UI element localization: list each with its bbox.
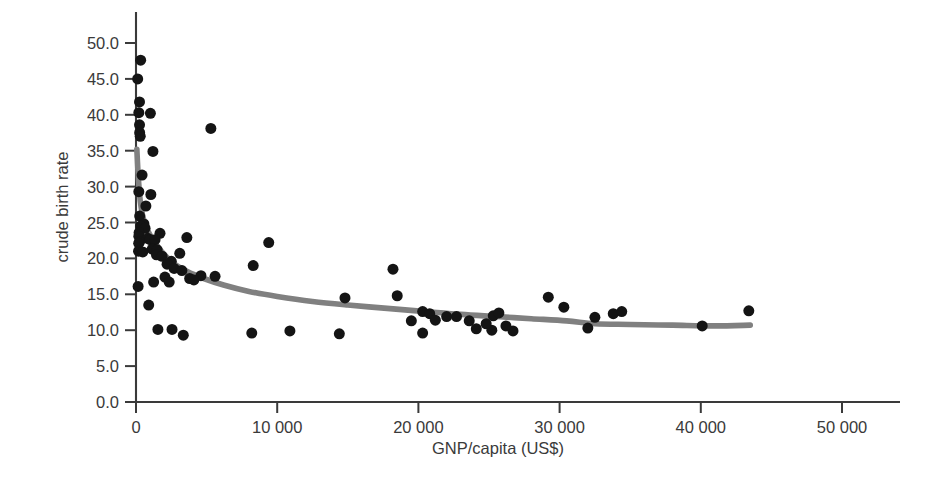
y-axis-title: crude birth rate [53,152,71,263]
data-point [441,311,452,322]
data-point [133,186,144,197]
data-point [133,107,144,118]
data-point [132,73,143,84]
data-point [178,330,189,341]
data-point [181,232,192,243]
data-points [132,55,754,341]
y-axis-ticks: 0.05.010.015.020.025.030.035.040.045.050… [87,34,136,411]
data-point [481,318,492,329]
data-point [616,306,627,317]
data-point [137,170,148,181]
data-point [246,328,257,339]
y-tick-label: 30.0 [87,178,119,196]
data-point [339,292,350,303]
data-point [134,96,145,107]
y-tick-label: 10.0 [87,321,119,339]
data-point [137,246,148,257]
y-tick-label: 45.0 [87,70,119,88]
y-tick-label: 20.0 [87,249,119,267]
data-point [543,292,554,303]
data-point [205,123,216,134]
chart-figure: 0.05.010.015.020.025.030.035.040.045.050… [0,0,937,482]
x-tick-label: 40 000 [676,418,726,436]
y-tick-label: 15.0 [87,285,119,303]
data-point [430,315,441,326]
x-tick-label: 10 000 [252,418,302,436]
data-point [697,320,708,331]
x-tick-label: 0 [131,418,140,436]
y-tick-label: 40.0 [87,106,119,124]
data-point [152,324,163,335]
data-point [145,189,156,200]
data-point [387,264,398,275]
data-point [174,248,185,259]
y-tick-label: 50.0 [87,34,119,52]
data-point [284,325,295,336]
data-point [417,328,428,339]
data-point [558,302,569,313]
data-point [176,265,187,276]
data-point [392,290,403,301]
x-tick-label: 30 000 [534,418,584,436]
data-point [334,328,345,339]
x-tick-label: 20 000 [393,418,443,436]
data-point [493,307,504,318]
y-tick-label: 0.0 [96,393,119,411]
data-point [135,55,146,66]
data-point [143,300,154,311]
data-point [140,200,151,211]
data-point [147,146,158,157]
data-point [582,323,593,334]
data-point [164,277,175,288]
data-point [451,311,462,322]
data-point [210,271,221,282]
x-axis-title: GNP/capita (US$) [432,439,564,457]
data-point [133,281,144,292]
data-point [148,277,159,288]
data-point [167,324,178,335]
data-point [248,260,259,271]
y-tick-label: 25.0 [87,214,119,232]
x-axis-ticks: 010 00020 00030 00040 00050 000 [131,402,867,436]
data-point [743,305,754,316]
data-point [589,312,600,323]
data-point [188,274,199,285]
data-point [464,315,475,326]
scatter-plot-canvas: 0.05.010.015.020.025.030.035.040.045.050… [0,0,937,482]
data-point [135,131,146,142]
data-point [145,108,156,119]
data-point [406,315,417,326]
trend-line [137,149,750,326]
y-tick-label: 35.0 [87,142,119,160]
data-point [150,234,161,245]
x-tick-label: 50 000 [817,418,867,436]
data-point [500,320,511,331]
y-tick-label: 5.0 [96,357,119,375]
data-point [263,237,274,248]
